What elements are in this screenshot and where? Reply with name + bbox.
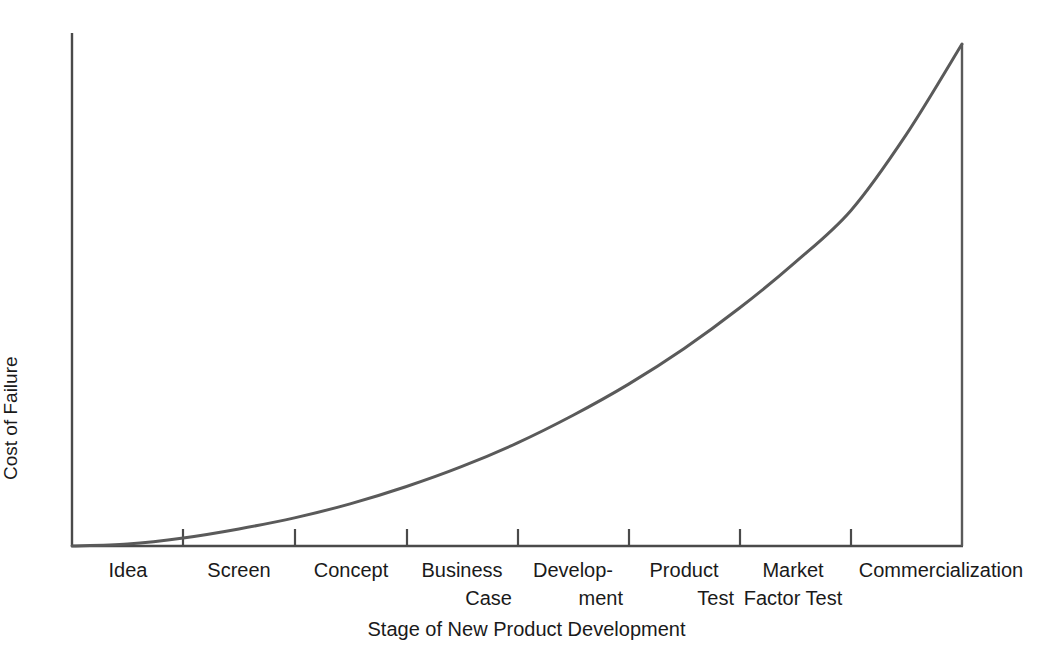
y-axis-title: Cost of Failure [0, 356, 22, 480]
chart-figure: Cost of Failure Idea Screen Concept Busi… [0, 0, 1053, 656]
x-tick-label-screen: Screen [183, 556, 295, 584]
x-tick-label-development-line1: Develop- [533, 559, 613, 581]
x-tick-label-development: Develop- ment [517, 556, 629, 612]
cost-of-failure-curve [72, 44, 962, 546]
x-axis-ticks [183, 529, 851, 546]
x-tick-label-product-test: Product Test [628, 556, 740, 612]
x-axis-title: Stage of New Product Development [0, 618, 1053, 641]
x-tick-label-business-case: Business Case [406, 556, 518, 612]
x-tick-label-screen-line1: Screen [207, 559, 270, 581]
x-tick-label-market-factor-test-line2: Factor Test [734, 584, 852, 612]
x-tick-label-business-case-line1: Business [421, 559, 502, 581]
y-axis-title-wrap: Cost of Failure [22, 180, 46, 480]
x-tick-label-idea-line1: Idea [109, 559, 148, 581]
x-tick-label-product-test-line1: Product [650, 559, 719, 581]
x-tick-label-commercialization: Commercialization [851, 556, 1031, 584]
x-tick-label-market-factor-test-line1: Market [762, 559, 823, 581]
x-tick-label-market-factor-test: Market Factor Test [734, 556, 852, 612]
x-tick-label-development-line2: ment [517, 584, 629, 612]
x-tick-label-concept-line1: Concept [314, 559, 389, 581]
x-tick-label-product-test-line2: Test [628, 584, 740, 612]
x-tick-label-concept: Concept [295, 556, 407, 584]
x-tick-label-idea: Idea [72, 556, 184, 584]
x-tick-label-business-case-line2: Case [406, 584, 518, 612]
x-tick-label-commercialization-line1: Commercialization [859, 559, 1024, 581]
